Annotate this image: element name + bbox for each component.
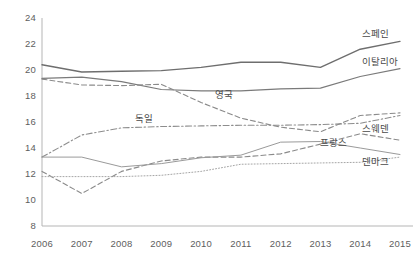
x-tick-label: 2009: [141, 238, 181, 249]
x-tick-label: 2015: [380, 238, 415, 249]
x-tick-label: 2006: [22, 238, 62, 249]
y-tick-label: 10: [12, 194, 36, 205]
x-tick-label: 2012: [261, 238, 301, 249]
y-tick-label: 18: [12, 90, 36, 101]
series-label-5: 프랑스: [320, 135, 347, 149]
y-tick-label: 24: [12, 12, 36, 23]
series-label-2: 영국: [215, 87, 233, 101]
x-tick-label: 2013: [300, 238, 340, 249]
x-tick-label: 2008: [102, 238, 142, 249]
y-tick-label: 12: [12, 168, 36, 179]
series-label-1: 이탈리아: [362, 54, 398, 68]
y-tick-label: 14: [12, 142, 36, 153]
y-tick-label: 22: [12, 38, 36, 49]
x-tick-label: 2011: [221, 238, 261, 249]
y-tick-label: 20: [12, 64, 36, 75]
series-label-6: 덴마크: [362, 154, 389, 168]
x-tick-label: 2007: [62, 238, 102, 249]
line-chart: 8101214161820222420062007200820092010201…: [0, 0, 415, 258]
series-label-4: 스웨덴: [362, 121, 389, 135]
y-tick-label: 8: [12, 220, 36, 231]
x-tick-label: 2010: [181, 238, 221, 249]
series-label-3: 독일: [135, 111, 153, 125]
series-line-0: [42, 41, 400, 72]
x-tick-label: 2014: [340, 238, 380, 249]
chart-plot-area: [0, 0, 415, 258]
series-label-0: 스페인: [362, 26, 389, 40]
y-tick-label: 16: [12, 116, 36, 127]
